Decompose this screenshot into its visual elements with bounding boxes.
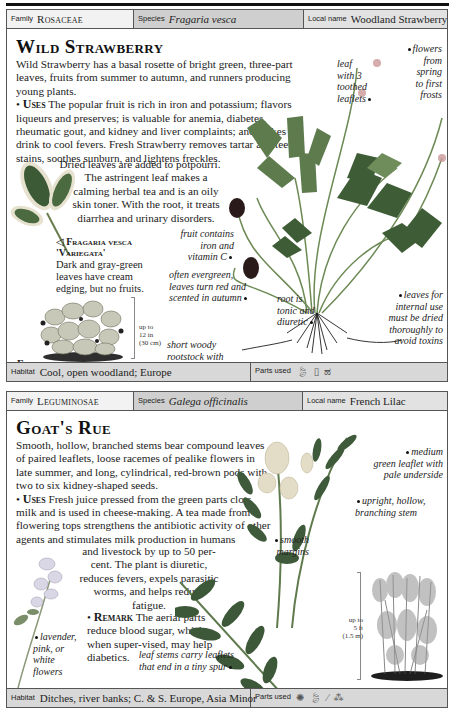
habitat-label: Habitat	[11, 367, 35, 376]
family-value: Leguminosae	[37, 395, 99, 407]
caption-flowers: flowers from spring to first frosts	[382, 43, 442, 101]
local-name-cell: Local name Woodland Strawberry	[304, 10, 447, 28]
parts-used-label: Parts used	[255, 692, 291, 701]
caption-fruit: fruit contains iron and vitamin C	[167, 228, 234, 263]
caption-root: root is tonic and diuretic	[277, 293, 337, 328]
root-icon: ▯	[314, 366, 320, 377]
caption-leaves-internal: leaves for internal use must be dried th…	[375, 289, 443, 347]
seed-icon: ⁂	[334, 692, 344, 703]
leaf-icon: 🍃︎	[296, 366, 309, 377]
uses-label: Uses	[23, 97, 46, 111]
uses-text: Fresh juice pressed from the green parts…	[16, 493, 270, 545]
caption-leaf: leaf with 3 toothed leaflets	[337, 58, 387, 104]
herb-entry-goats-rue: Family Leguminosae Species Galega offici…	[6, 391, 448, 708]
family-label: Family	[11, 14, 33, 23]
species-cell: Species Fragaria vesca	[134, 10, 304, 28]
caption-flowers: lavender, pink, or white flowers	[33, 631, 88, 677]
leaf-icon: 🍃︎	[309, 692, 322, 703]
parts-used-label: Parts used	[255, 366, 291, 375]
species-label: Species	[138, 396, 165, 405]
caption-evergreen: often evergreen, leaves turn red and sce…	[169, 269, 269, 304]
compound-leaf-illustration	[175, 572, 285, 702]
habitat-value: Cool, open woodland; Europe	[40, 366, 172, 378]
caption-leaf-stems: leaf stems carry leaflets that end in a …	[122, 649, 234, 672]
whole-plant-illustration	[365, 570, 445, 682]
height-scale: up to 12 in (30 cm)	[139, 323, 161, 347]
variety-title: ◁ Fragaria vesca 'Variegata'	[56, 236, 132, 258]
caption-medium-green-leaflet: medium green leaflet with pale underside	[347, 446, 443, 481]
variety-text: Dark and gray-green leaves have cream ed…	[56, 259, 146, 295]
family-value: Rosaceae	[37, 13, 83, 25]
height-scale: up to 5 ft (1.5 m)	[335, 616, 363, 640]
stem-icon: ⁄	[327, 692, 329, 703]
local-name-value: Woodland Strawberry	[351, 13, 447, 25]
species-value: Fragaria vesca	[169, 13, 237, 25]
scale-bar	[131, 297, 135, 359]
uses-label: Uses	[23, 492, 46, 506]
entry-header: Family Leguminosae Species Galega offici…	[7, 392, 447, 411]
description: Smooth, hollow, branched stems bear comp…	[16, 439, 267, 491]
local-name-value: French Lilac	[350, 395, 406, 407]
remark-label: Remark	[94, 610, 133, 624]
entry-title: Wild Strawberry	[16, 36, 164, 58]
whole-plant-illustration	[35, 297, 130, 365]
habitat-label: Habitat	[11, 693, 35, 702]
herb-entry-wild-strawberry: Family Rosaceae Species Fragaria vesca L…	[6, 9, 448, 382]
species-cell: Species Galega officinalis	[134, 392, 303, 410]
local-name-label: Local name	[307, 396, 346, 405]
parts-used-cell: Parts used 🍃︎ ▯ ಹ	[251, 363, 447, 381]
parts-used-cell: Parts used ✺ 🍃︎ ⁄ ⁂	[251, 689, 447, 707]
habitat-value: Ditches, river banks; C. & S. Europe, As…	[40, 692, 257, 704]
family-cell: Family Rosaceae	[7, 10, 134, 28]
habitat-cell: Habitat Ditches, river banks; C. & S. Eu…	[7, 689, 251, 707]
entry-footer: Habitat Ditches, river banks; C. & S. Eu…	[7, 688, 447, 707]
top-rule	[6, 3, 449, 6]
species-value: Galega officinalis	[169, 395, 248, 407]
local-name-label: Local name	[308, 14, 347, 23]
flower-icon: ✺	[296, 692, 304, 703]
caption-smooth-margins: smooth margins	[269, 534, 309, 557]
caption-upright-stem: upright, hollow, branching stem	[355, 495, 445, 518]
entry-footer: Habitat Cool, open woodland; Europe Part…	[7, 362, 447, 381]
local-name-cell: Local name French Lilac	[303, 392, 447, 410]
entry-header: Family Rosaceae Species Fragaria vesca L…	[7, 10, 447, 29]
habitat-cell: Habitat Cool, open woodland; Europe	[7, 363, 251, 381]
fruit-icon: ಹ	[324, 366, 331, 378]
description-text: Smooth, hollow, branched stems bear comp…	[16, 439, 272, 546]
species-label: Species	[138, 14, 165, 23]
entry-title: Goat's Rue	[16, 417, 111, 439]
family-label: Family	[11, 396, 33, 405]
uses-text-continued: Dried leaves are added to potpourri. The…	[55, 158, 225, 225]
family-cell: Family Leguminosae	[7, 392, 134, 410]
